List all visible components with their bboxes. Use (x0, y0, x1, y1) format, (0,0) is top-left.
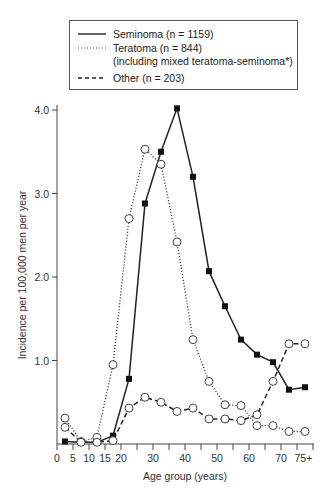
data-point-circle (189, 404, 197, 412)
data-point-square (254, 352, 260, 358)
data-point-circle (221, 401, 229, 409)
data-point-circle (157, 398, 165, 406)
data-point-circle (157, 160, 165, 168)
x-tick-label: 30 (147, 452, 159, 464)
data-point-circle (221, 415, 229, 423)
series-line-0 (65, 108, 305, 442)
data-point-circle (205, 377, 213, 385)
y-tick-label: 1.0 (34, 355, 49, 367)
x-axis-title: Age group (years) (143, 470, 227, 482)
data-point-square (190, 174, 196, 180)
data-point-circle (125, 404, 133, 412)
data-point-square (126, 376, 132, 382)
data-point-square (286, 387, 292, 393)
y-tick-label: 3.0 (34, 188, 49, 200)
data-point-circle (173, 238, 181, 246)
data-point-circle (285, 427, 293, 435)
data-point-circle (93, 438, 101, 446)
data-point-square (174, 105, 180, 111)
x-tick-label: 20 (115, 452, 127, 464)
x-tick-label: 10 (83, 452, 95, 464)
data-point-square (302, 384, 308, 390)
x-tick-label: 15 (99, 452, 111, 464)
data-point-square (222, 303, 228, 309)
y-tick-label: 2.0 (34, 271, 49, 283)
x-tick-label: 5 (70, 452, 76, 464)
y-axis-ticks: 4.03.02.01.0 (34, 104, 57, 367)
x-tick-label: 50 (211, 452, 223, 464)
data-point-circle (205, 415, 213, 423)
data-point-circle (141, 393, 149, 401)
x-axis-ticks: 05101520304050607075+ (54, 444, 313, 464)
data-point-square (158, 149, 164, 155)
data-point-square (62, 438, 68, 444)
line-chart: 4.03.02.01.0 05101520304050607075+ Age g… (0, 0, 331, 493)
x-tick-label: 60 (243, 452, 255, 464)
data-point-circle (237, 402, 245, 410)
data-point-circle (301, 427, 309, 435)
data-point-square (142, 201, 148, 207)
data-point-circle (253, 411, 261, 419)
y-axis-title: Incidence per 100,000 men per year (16, 190, 28, 359)
data-point-square (270, 359, 276, 365)
x-tick-label: 75+ (294, 452, 312, 464)
data-point-circle (61, 423, 69, 431)
data-point-circle (269, 422, 277, 430)
x-tick-label: 40 (179, 452, 191, 464)
data-point-square (206, 268, 212, 274)
x-tick-label: 70 (275, 452, 287, 464)
data-point-circle (173, 407, 181, 415)
data-point-circle (253, 422, 261, 430)
data-point-circle (77, 438, 85, 446)
data-point-circle (109, 361, 117, 369)
data-point-circle (141, 145, 149, 153)
data-point-square (238, 337, 244, 343)
data-point-circle (285, 340, 293, 348)
data-point-circle (301, 340, 309, 348)
axes (57, 105, 314, 444)
data-point-circle (125, 215, 133, 223)
data-point-circle (269, 377, 277, 385)
y-tick-label: 4.0 (34, 104, 49, 116)
series-line-1 (65, 149, 305, 441)
data-point-circle (189, 336, 197, 344)
data-point-circle (109, 437, 117, 445)
x-tick-label: 0 (54, 452, 60, 464)
data-series (61, 105, 309, 446)
data-point-circle (61, 414, 69, 422)
data-point-circle (237, 417, 245, 425)
